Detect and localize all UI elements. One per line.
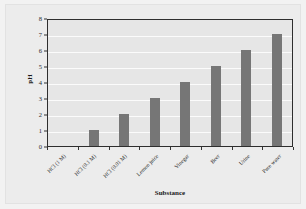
chart-figure: pH 012345678 HCl (1 M)HCl (0.1 M)HCl (0.… (0, 0, 306, 209)
x-axis-tick-mark (139, 147, 140, 150)
x-axis-tick-mark (78, 147, 79, 150)
bar-slot (109, 20, 140, 146)
x-axis-category-label-text: Vinegar (173, 153, 190, 170)
bar (211, 66, 221, 146)
x-axis-tick-mark (47, 147, 48, 150)
x-axis-tick-mark (232, 147, 233, 150)
y-axis-tick-label: 4 (39, 80, 42, 87)
x-axis-tick-mark (170, 147, 171, 150)
bar-slot (201, 20, 232, 146)
bar (119, 114, 129, 146)
x-axis-category-label-text: Pure water (261, 153, 282, 174)
x-axis-category-label-text: HCl (0.01 M) (102, 153, 128, 179)
y-axis-tick-label: 0 (39, 144, 42, 151)
bar (180, 82, 190, 146)
y-axis-tick-label: 7 (39, 32, 42, 39)
plot-area (47, 19, 293, 147)
x-axis-tick-mark (293, 147, 294, 150)
bar-slot (231, 20, 262, 146)
x-axis-tick-mark (201, 147, 202, 150)
y-axis-tick-label: 5 (39, 64, 42, 71)
y-axis-tick-label: 3 (39, 96, 42, 103)
x-axis-tick-mark (109, 147, 110, 150)
y-axis-tick-labels: 012345678 (33, 19, 44, 147)
y-axis-tick-label: 6 (39, 48, 42, 55)
bar (89, 130, 99, 146)
x-axis-category-label-text: Urine (238, 153, 251, 166)
x-axis-category-label-text: Beer (209, 153, 221, 165)
x-axis-category-label-text: HCl (1 M) (46, 153, 67, 174)
bar-slot (79, 20, 110, 146)
bar-slot (170, 20, 201, 146)
x-axis-category-labels: HCl (1 M)HCl (0.1 M)HCl (0.01 M)Lemon ju… (47, 151, 293, 187)
bar-series (48, 20, 292, 146)
x-axis-category-label-text: HCl (0.1 M) (73, 153, 97, 177)
bar-slot (262, 20, 293, 146)
x-axis-tick-mark (262, 147, 263, 150)
y-axis-tick-label: 2 (39, 112, 42, 119)
y-axis-tick-label: 1 (39, 128, 42, 135)
x-axis-category-label-text: Lemon juice (135, 153, 159, 177)
x-axis-title: Substance (47, 189, 293, 197)
figure-background: pH 012345678 HCl (1 M)HCl (0.1 M)HCl (0.… (5, 4, 301, 204)
bar-slot (140, 20, 171, 146)
bar-slot (48, 20, 79, 146)
bar (241, 50, 251, 146)
bar (272, 34, 282, 146)
y-axis-tick-label: 8 (39, 16, 42, 23)
bar (150, 98, 160, 146)
